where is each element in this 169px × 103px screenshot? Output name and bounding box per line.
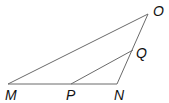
segment-mo — [8, 14, 148, 84]
vertex-label-n: N — [114, 87, 125, 103]
triangle-diagram: O Q M P N — [0, 0, 169, 103]
vertex-label-q: Q — [136, 45, 147, 61]
vertex-label-o: O — [153, 3, 164, 19]
vertex-label-p: P — [66, 87, 76, 103]
vertex-label-m: M — [5, 87, 17, 103]
segment-pq — [71, 50, 133, 84]
